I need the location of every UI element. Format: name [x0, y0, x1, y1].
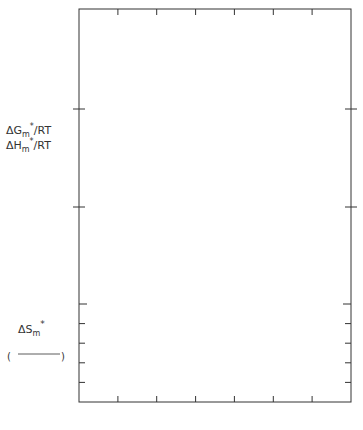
- chart: ΔGm*/RT ΔHm*/RT ΔSm* ( ): [0, 0, 363, 430]
- bottom-y-ticks: [79, 304, 351, 382]
- bottom-x-ticks: [118, 396, 312, 402]
- plot-frame: [79, 9, 351, 402]
- ylabel-sm: ΔSm*: [18, 319, 45, 338]
- ylabel-sm-paren-right: ): [61, 351, 65, 362]
- top-x-ticks: [118, 9, 312, 15]
- ylabel-hm: ΔHm*/RT: [6, 137, 51, 154]
- top-y-ticks: [73, 109, 357, 207]
- ylabel-sm-paren-left: (: [7, 351, 11, 362]
